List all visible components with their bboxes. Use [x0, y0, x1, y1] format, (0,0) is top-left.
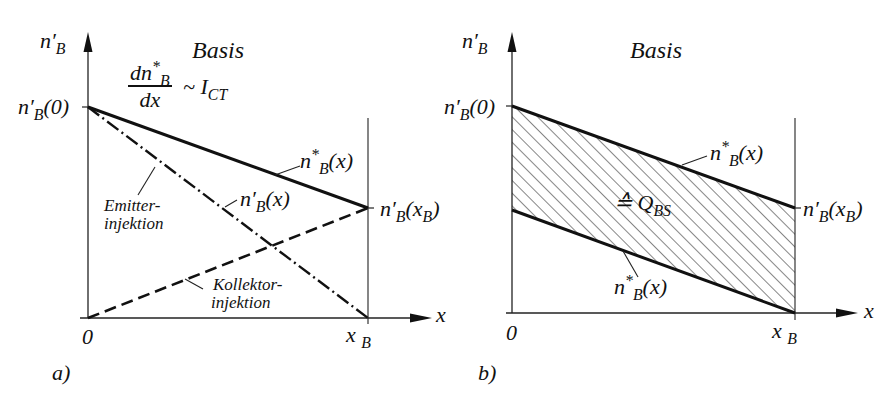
y0-label-b: n′B(0) — [444, 96, 495, 118]
y-axis-label-a: n′B — [40, 30, 65, 52]
kollektor-label-1: Kollektor- — [213, 276, 283, 293]
region-label-a: Basis — [192, 38, 244, 62]
region-label-b: Basis — [630, 38, 682, 62]
yxb-label-b: n′B(xB) — [803, 198, 863, 220]
y-axis-label-b: n′B — [462, 30, 487, 52]
kollektor-label-2: injektion — [211, 294, 270, 311]
xb-label-b: x B — [772, 320, 797, 342]
lower-curve-label-b: n*B(x) — [614, 276, 667, 298]
emitter-label-1: Emitter- — [104, 197, 160, 214]
y-axis-arrow-icon — [508, 32, 517, 52]
caption-a: a) — [52, 362, 70, 384]
xb-label-a: x B — [346, 324, 371, 346]
charge-label: ≙ QBS — [614, 192, 671, 214]
y-axis-arrow-icon — [84, 32, 93, 52]
emitter-label-2: injektion — [104, 215, 163, 232]
panel-b-axes — [506, 32, 858, 320]
gradient-formula: dn*Bdx ~ ICT — [128, 62, 227, 111]
x-axis-arrow-icon — [836, 309, 858, 318]
nprime-label-a: n′B(x) — [240, 188, 290, 210]
y0-label-a: n′B(0) — [18, 96, 69, 118]
yxb-label-a: n′B(xB) — [380, 198, 440, 220]
caption-b: b) — [478, 362, 496, 384]
origin-label-b: 0 — [506, 322, 517, 344]
x-axis-arrow-icon — [410, 314, 432, 323]
x-axis-label-a: x — [436, 304, 446, 326]
nstar-label-a: n*B(x) — [300, 150, 353, 172]
x-axis-label-b: x — [864, 300, 874, 322]
upper-curve-label-b: n*B(x) — [710, 142, 763, 164]
origin-label-a: 0 — [82, 326, 93, 348]
